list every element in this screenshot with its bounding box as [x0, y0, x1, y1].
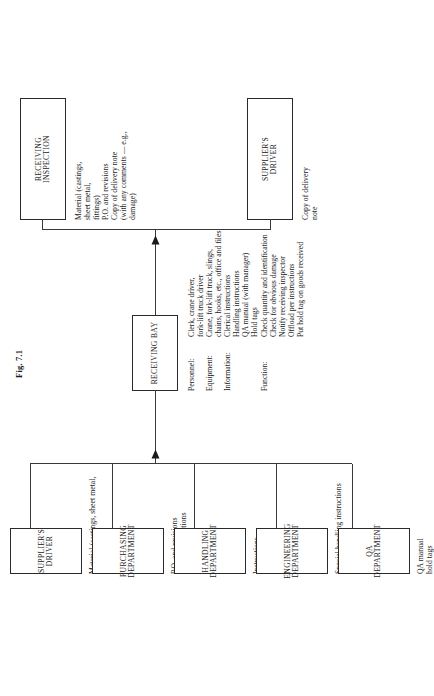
- node-input-qa-department[interactable]: QA DEPARTMENT: [338, 528, 410, 574]
- spec-label-personnel: Personnel:: [187, 359, 196, 391]
- figure-caption: Fig. 7.1: [14, 350, 24, 378]
- spec-value-function: Check quantity and identification Check …: [260, 234, 305, 337]
- connector-output-bus-vertical: [42, 229, 270, 230]
- node-receiving-inspection[interactable]: RECEIVING INSPECTION: [20, 98, 66, 220]
- spec-value-personnel: Clerk, crane driver, fork-lift truck dri…: [187, 275, 205, 337]
- connector-input-1-stem: [112, 464, 113, 528]
- spec-value-information: Clerical instructions Handling instructi…: [223, 253, 259, 337]
- connector-input-3-stem: [276, 464, 277, 528]
- node-input-qa-department-line2: DEPARTMENT: [374, 524, 383, 577]
- spec-label-equipment: Equipment:: [205, 355, 214, 391]
- node-input-purchasing-department-line2: DEPARTMENT: [128, 524, 137, 577]
- node-input-handling-department[interactable]: HANDLING DEPARTMENT: [174, 528, 246, 574]
- spec-label-function: Function:: [260, 362, 269, 391]
- node-receiving-inspection-line2: INSPECTION: [43, 135, 52, 183]
- node-input-engineering-department[interactable]: ENGINEERING DEPARTMENT: [256, 528, 328, 574]
- spec-label-information: Information:: [223, 352, 232, 391]
- annotation-input-qa-department: QA manual hold tags: [416, 374, 434, 574]
- connector-suppliers-driver-output-stub: [270, 219, 271, 230]
- node-input-handling-department-line2: DEPARTMENT: [210, 524, 219, 577]
- annotation-receiving-inspection-outputs: Material (castings, sheet metal, fitting…: [74, 131, 137, 220]
- connector-input-4-stem: [352, 464, 353, 528]
- node-suppliers-driver-output[interactable]: SUPPLIER'S DRIVER: [247, 98, 293, 220]
- arrowhead-to-receiving-bay: [151, 450, 159, 459]
- node-receiving-bay-line1: RECEIVING BAY: [151, 322, 160, 385]
- connector-input-bus-vertical: [30, 463, 352, 464]
- connector-input-2-stem: [194, 464, 195, 528]
- node-input-engineering-department-line2: DEPARTMENT: [292, 523, 301, 578]
- node-input-suppliers-driver-line2: DRIVER: [46, 529, 55, 573]
- node-input-suppliers-driver[interactable]: SUPPLIER'S DRIVER: [10, 528, 82, 574]
- spec-value-equipment: Crane, fork-lift truck, slings, chains, …: [205, 231, 223, 337]
- annotation-suppliers-driver-output: Copy of delivery note: [301, 167, 319, 220]
- node-input-purchasing-department[interactable]: PURCHASING DEPARTMENT: [92, 528, 164, 574]
- connector-receiving-inspection-stub: [42, 219, 43, 230]
- arrowhead-to-outputs: [151, 236, 159, 245]
- connector-input-0-stem: [30, 464, 31, 528]
- node-suppliers-driver-output-line2: DRIVER: [270, 137, 279, 181]
